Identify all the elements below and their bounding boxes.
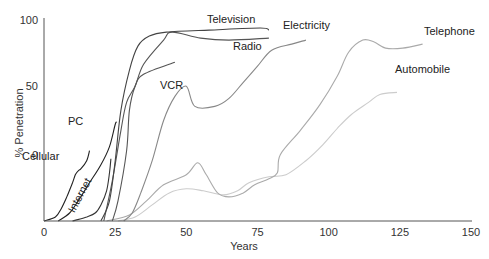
series-label-radio: Radio [233, 40, 262, 52]
x-tick-labels: 0255075100125150 [41, 226, 480, 238]
series-label-automobile: Automobile [395, 63, 450, 75]
x-tick-label: 125 [391, 226, 409, 238]
series-label-vcr: VCR [160, 79, 183, 91]
series-label-internet: Internet [65, 176, 93, 215]
series-line-television [101, 28, 269, 221]
series-line-telephone [107, 40, 423, 221]
x-axis-title: Years [230, 240, 258, 252]
y-tick-label: 100 [20, 14, 38, 26]
y-axis-title: % Penetration [13, 88, 25, 157]
x-tick-label: 150 [462, 226, 480, 238]
series-labels: CellularPCInternetTelevisionRadioVCRElec… [22, 13, 475, 214]
series-label-telephone: Telephone [424, 25, 475, 37]
series-label-cellular: Cellular [22, 150, 60, 162]
series-label-pc: PC [68, 115, 83, 127]
y-tick-label: 50 [26, 80, 38, 92]
x-tick-label: 25 [109, 226, 121, 238]
series-label-electricity: Electricity [283, 19, 331, 31]
adoption-chart: 100500 0255075100125150 Years % Penetrat… [0, 0, 489, 259]
series-line-automobile [118, 92, 397, 221]
series-lines [44, 28, 423, 221]
series-label-television: Television [207, 13, 255, 25]
x-tick-label: 50 [180, 226, 192, 238]
x-tick-label: 100 [319, 226, 337, 238]
x-tick-label: 75 [251, 226, 263, 238]
x-tick-label: 0 [41, 226, 47, 238]
